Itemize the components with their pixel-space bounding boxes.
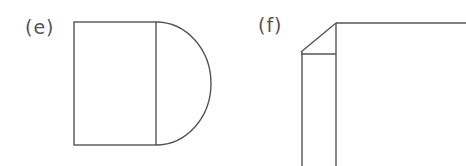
semicircle-e [156, 22, 211, 145]
shape-f [301, 23, 466, 166]
rectangle-e [74, 22, 156, 145]
fold-diagonal-f [301, 23, 336, 52]
figure: (e) (f) [0, 0, 466, 166]
diagram-canvas [0, 0, 466, 166]
shape-e [74, 22, 211, 145]
